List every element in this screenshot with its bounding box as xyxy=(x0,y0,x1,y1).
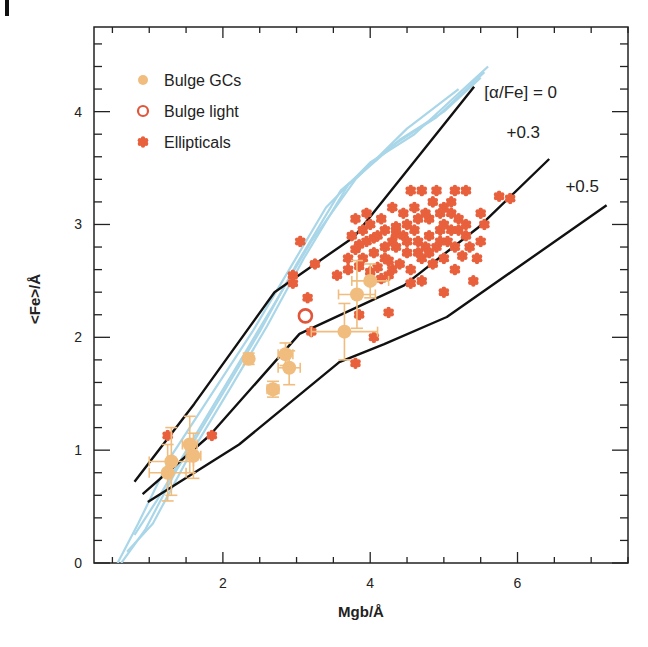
model-line-labels: [α/Fe] = 0+0.3+0.5 xyxy=(484,83,599,196)
legend-label: Ellipticals xyxy=(164,134,231,151)
elliptical-marker xyxy=(439,253,450,265)
elliptical-marker xyxy=(428,196,439,208)
gc-marker xyxy=(186,449,200,463)
bulge-light-series xyxy=(299,309,312,322)
model-line-label: [α/Fe] = 0 xyxy=(484,83,557,102)
elliptical-marker xyxy=(416,185,427,197)
elliptical-marker xyxy=(416,275,427,287)
elliptical-marker xyxy=(431,185,442,197)
gc-marker xyxy=(282,361,296,375)
y-tick-label: 2 xyxy=(74,329,82,345)
elliptical-marker xyxy=(302,292,313,304)
y-axis-title: <Fe>/Å xyxy=(26,274,43,324)
elliptical-marker xyxy=(424,230,435,242)
elliptical-marker xyxy=(405,264,416,276)
elliptical-marker xyxy=(383,307,394,319)
gc-point xyxy=(149,445,186,501)
model-line-label: +0.5 xyxy=(565,177,599,196)
elliptical-marker xyxy=(494,190,505,202)
elliptical-marker xyxy=(461,185,472,197)
legend-label: Bulge light xyxy=(164,103,239,120)
elliptical-marker xyxy=(475,236,486,248)
y-tick-label: 4 xyxy=(74,104,82,120)
gc-marker xyxy=(164,454,178,468)
gc-marker xyxy=(363,274,377,288)
elliptical-marker xyxy=(343,253,354,265)
elliptical-marker xyxy=(472,253,483,265)
elliptical-marker xyxy=(376,213,387,225)
gc-marker xyxy=(279,347,293,361)
elliptical-marker xyxy=(405,185,416,197)
elliptical-marker xyxy=(350,357,361,369)
gc-marker xyxy=(337,325,351,339)
legend-label: Bulge GCs xyxy=(164,72,241,89)
elliptical-marker xyxy=(450,264,461,276)
elliptical-marker xyxy=(369,247,380,259)
legend: Bulge GCsBulge lightEllipticals xyxy=(138,72,242,151)
model-line-label: +0.3 xyxy=(506,123,540,142)
legend-marker-ellipticals xyxy=(138,136,149,148)
elliptical-marker xyxy=(402,247,413,259)
gc-marker xyxy=(350,287,364,301)
gc-marker xyxy=(266,382,280,396)
legend-marker-bulge-light xyxy=(138,106,148,116)
elliptical-marker xyxy=(479,219,490,231)
elliptical-marker xyxy=(387,202,398,214)
x-tick-label: 4 xyxy=(366,575,374,591)
elliptical-marker xyxy=(464,241,475,253)
y-tick-label: 0 xyxy=(74,555,82,571)
y-tick-label: 3 xyxy=(74,216,82,232)
elliptical-marker xyxy=(398,207,409,219)
elliptical-marker xyxy=(332,269,343,281)
elliptical-marker xyxy=(354,309,365,321)
x-tick-label: 6 xyxy=(514,575,522,591)
elliptical-marker xyxy=(468,275,479,287)
elliptical-marker xyxy=(343,264,354,276)
gc-point xyxy=(266,381,280,397)
elliptical-marker xyxy=(207,430,218,442)
elliptical-marker xyxy=(350,213,361,225)
x-axis-title: Mgb/Å xyxy=(338,603,384,620)
scatter-plot: 24601234 [α/Fe] = 0+0.3+0.5 Bulge GCsBul… xyxy=(0,0,648,647)
gc-point xyxy=(242,352,256,366)
elliptical-marker xyxy=(475,207,486,219)
elliptical-marker xyxy=(450,185,461,197)
elliptical-marker xyxy=(409,202,420,214)
elliptical-marker xyxy=(439,286,450,298)
x-tick-label: 2 xyxy=(219,575,227,591)
elliptical-marker xyxy=(457,250,468,262)
bulge-light-marker xyxy=(299,309,312,322)
legend-marker-bulge-gcs xyxy=(138,75,148,85)
gc-marker xyxy=(242,352,256,366)
elliptical-marker xyxy=(405,277,416,289)
y-tick-label: 1 xyxy=(74,442,82,458)
